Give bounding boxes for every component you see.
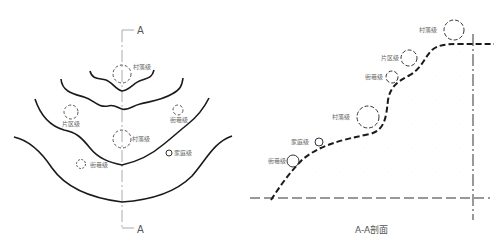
section-label-street-upper: 街巷级 xyxy=(365,73,383,81)
section-label-street-lower: 街巷级 xyxy=(268,157,286,165)
terrain-fill xyxy=(271,44,473,199)
plan-label-district-left: 片区级 xyxy=(62,120,80,128)
section-marker-top: A xyxy=(137,25,144,36)
diagram-canvas: A A 村落级 片区级 街巷级 村落级 家庭级 街巷级 xyxy=(0,0,503,245)
section-marker-bottom: A xyxy=(137,224,144,235)
plan-label-village-center: 村落级 xyxy=(132,135,150,143)
section-street-circle-upper xyxy=(386,71,398,83)
section-caption: A-A剖面 xyxy=(355,224,388,235)
district-circle-left xyxy=(64,105,78,119)
section-district-circle xyxy=(401,50,417,66)
section-label-family: 家庭级 xyxy=(291,138,309,146)
section-label-village-top: 村落级 xyxy=(419,26,437,34)
plan-view: A A 村落级 片区级 街巷级 村落级 家庭级 街巷级 xyxy=(14,25,232,235)
section-family-circle xyxy=(315,138,323,146)
section-village-circle-top xyxy=(444,20,464,40)
street-circle-right xyxy=(173,105,183,115)
section-label-district: 片区级 xyxy=(381,54,399,62)
plan-label-street-right: 街巷级 xyxy=(170,116,188,124)
section-street-circle-lower xyxy=(287,155,299,167)
plan-label-village-top: 村落级 xyxy=(133,63,151,71)
street-circle-left xyxy=(77,160,86,169)
family-circle-right xyxy=(166,150,172,156)
plan-label-family-right: 家庭级 xyxy=(174,149,192,157)
section-label-village-mid: 村落级 xyxy=(332,113,350,121)
plan-label-street-left: 街巷级 xyxy=(90,161,108,169)
section-view: 村落级 片区级 街巷级 村落级 家庭级 街巷级 A-A剖面 xyxy=(250,20,494,235)
section-village-circle-mid xyxy=(357,106,379,128)
contour-line-4 xyxy=(14,136,232,202)
